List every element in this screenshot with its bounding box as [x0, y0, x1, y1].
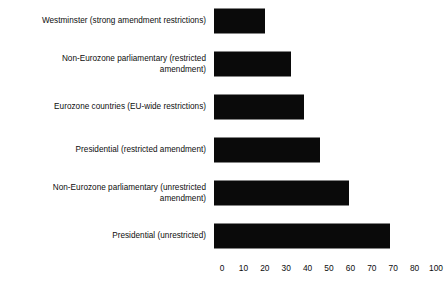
bar: [214, 8, 265, 33]
x-axis-tick-label: 60: [346, 263, 355, 273]
category-label: Non-Eurozone parliamentary (unrestricted…: [0, 182, 214, 204]
bar: [214, 180, 349, 205]
x-axis-tick-label: 50: [324, 263, 333, 273]
bar-chart: Westminster (strong amendment restrictio…: [0, 0, 444, 286]
bar-track: [214, 43, 444, 84]
x-axis-tick-label: 40: [303, 263, 312, 273]
bar-track: [214, 172, 444, 213]
bar: [214, 137, 320, 162]
bar: [214, 94, 304, 119]
bar-track: [214, 215, 444, 256]
bar: [214, 223, 390, 248]
category-label: Presidential (restricted amendment): [0, 144, 214, 155]
category-label: Westminster (strong amendment restrictio…: [0, 15, 214, 26]
x-axis-tick-label: 100: [429, 263, 443, 273]
x-axis-tick-label: 30: [282, 263, 291, 273]
bar-track: [214, 86, 444, 127]
x-axis-tick-label: 80: [410, 263, 419, 273]
bar-track: [214, 0, 444, 41]
bar-track: [214, 129, 444, 170]
x-axis-tick-label: 20: [260, 263, 269, 273]
x-axis-tick-label: 0: [220, 263, 225, 273]
plot-area: Westminster (strong amendment restrictio…: [0, 0, 444, 286]
x-axis: 0102030405060707080100: [214, 259, 444, 279]
x-axis-tick-label: 10: [239, 263, 248, 273]
bar-row: Eurozone countries (EU-wide restrictions…: [0, 86, 444, 127]
bar-row: Westminster (strong amendment restrictio…: [0, 0, 444, 41]
x-axis-tick-label: 70: [367, 263, 376, 273]
bar-row: Presidential (unrestricted): [0, 215, 444, 256]
x-axis-tick-label: 70: [389, 263, 398, 273]
bar: [214, 51, 291, 76]
category-label: Non-Eurozone parliamentary (restricted a…: [0, 53, 214, 75]
bar-row: Non-Eurozone parliamentary (restricted a…: [0, 43, 444, 84]
category-label: Eurozone countries (EU-wide restrictions…: [0, 101, 214, 112]
bar-row: Presidential (restricted amendment): [0, 129, 444, 170]
category-label: Presidential (unrestricted): [0, 230, 214, 241]
bar-row: Non-Eurozone parliamentary (unrestricted…: [0, 172, 444, 213]
